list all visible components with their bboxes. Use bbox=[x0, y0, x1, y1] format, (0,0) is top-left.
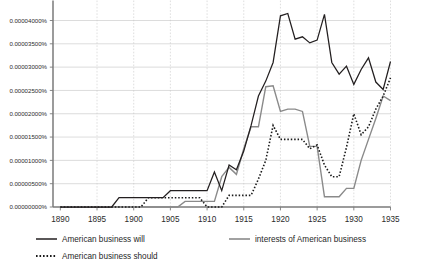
x-axis-tick-label: 1925 bbox=[308, 215, 327, 224]
x-axis-tick-label: 1915 bbox=[235, 215, 254, 224]
x-axis-tick-label: 1935 bbox=[381, 215, 400, 224]
x-axis-tick-label: 1930 bbox=[345, 215, 364, 224]
legend-label: American business will bbox=[62, 235, 145, 244]
horizontal-gridlines bbox=[53, 21, 391, 184]
x-axis-tick-label: 1895 bbox=[88, 215, 107, 224]
series-line-american-business-will bbox=[60, 14, 390, 207]
chart-canvas: 0.00000000%0.00000500%0.00001000%0.00001… bbox=[0, 0, 423, 267]
series-line-american-business-should bbox=[60, 78, 390, 207]
y-axis-tick-labels: 0.00000000%0.00000500%0.00001000%0.00001… bbox=[9, 17, 47, 211]
y-axis-tick-label: 0.00002000% bbox=[9, 110, 47, 117]
data-series-group bbox=[60, 14, 390, 207]
y-axis-tick-label: 0.00004000% bbox=[9, 17, 47, 24]
legend-label: American business should bbox=[62, 252, 158, 261]
y-axis-tick-label: 0.00001000% bbox=[9, 157, 47, 164]
chart-legend: American business willinterests of Ameri… bbox=[36, 235, 366, 261]
legend-label: interests of American business bbox=[255, 235, 366, 244]
y-axis-tick-label: 0.00000500% bbox=[9, 180, 47, 187]
vertical-gridlines bbox=[97, 1, 390, 208]
ngram-line-chart: 0.00000000%0.00000500%0.00001000%0.00001… bbox=[0, 0, 423, 267]
x-axis-tick-label: 1920 bbox=[271, 215, 290, 224]
y-axis-tick-label: 0.00003000% bbox=[9, 63, 47, 70]
y-axis-tick-label: 0.00001500% bbox=[9, 133, 47, 140]
series-line-interests-of-american-business bbox=[60, 86, 390, 207]
x-axis-tick-label: 1910 bbox=[198, 215, 217, 224]
x-axis-tick-label: 1890 bbox=[51, 215, 70, 224]
x-axis-tick-label: 1905 bbox=[161, 215, 180, 224]
y-axis-tick-label: 0.00002500% bbox=[9, 87, 47, 94]
y-axis-tick-label: 0.00003500% bbox=[9, 40, 47, 47]
x-axis-tick-label: 1900 bbox=[125, 215, 144, 224]
x-axis-tick-labels: 1890189519001905191019151920192519301935 bbox=[51, 215, 400, 224]
y-axis-tick-label: 0.00000000% bbox=[9, 203, 47, 210]
